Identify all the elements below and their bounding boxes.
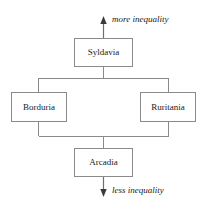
arrow-down-icon (100, 189, 106, 197)
node-borduria[interactable]: Borduria (12, 93, 67, 122)
node-borduria-label: Borduria (23, 102, 55, 112)
diagram-canvas: Syldavia Borduria Ruritania Arcadia more… (0, 0, 203, 204)
node-ruritania[interactable]: Ruritania (141, 93, 196, 122)
axis-label-more-inequality: more inequality (112, 14, 168, 24)
node-syldavia[interactable]: Syldavia (75, 39, 133, 67)
node-arcadia-label: Arcadia (89, 157, 117, 167)
axis-label-less-inequality: less inequality (112, 185, 164, 195)
connector-group-lower (39, 122, 169, 148)
inequality-hierarchy-diagram: Syldavia Borduria Ruritania Arcadia more… (0, 0, 203, 204)
node-ruritania-label: Ruritania (151, 102, 185, 112)
arrow-up-icon (100, 16, 106, 24)
node-arcadia[interactable]: Arcadia (75, 149, 133, 177)
connector-group-upper (39, 66, 169, 92)
node-syldavia-label: Syldavia (88, 47, 120, 57)
